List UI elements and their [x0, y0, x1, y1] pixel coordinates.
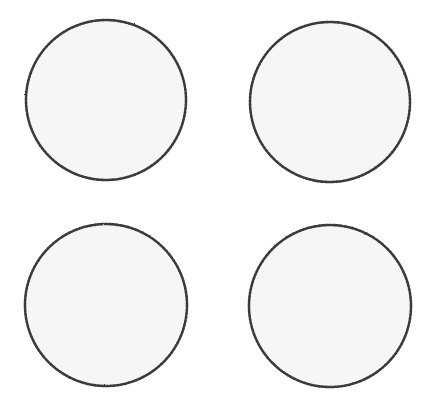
circle-top-right — [250, 22, 410, 182]
circles-drawing — [0, 0, 432, 415]
circle-bottom-right — [249, 225, 411, 387]
circle-top-left — [26, 20, 186, 180]
drawing-canvas — [0, 0, 432, 415]
circle-bottom-left — [25, 224, 187, 386]
